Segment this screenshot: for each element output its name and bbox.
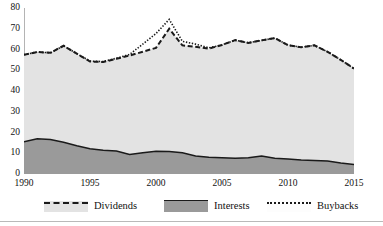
- buybacks-swatch: [267, 201, 311, 212]
- chart-svg: [24, 8, 354, 174]
- y-tick-label: 70: [11, 24, 21, 34]
- y-tick-label: 20: [11, 128, 21, 138]
- y-axis: 01020304050607080: [0, 8, 20, 174]
- y-tick-label: 60: [11, 45, 21, 55]
- x-tick-label: 2000: [147, 179, 166, 189]
- y-tick-label: 50: [11, 66, 21, 76]
- x-tick-label: 1990: [15, 179, 34, 189]
- x-axis: 199019952000200520102015: [24, 176, 354, 190]
- x-tick-label: 2005: [213, 179, 232, 189]
- legend-item-buybacks[interactable]: Buybacks: [267, 196, 358, 216]
- dividends-area: [24, 29, 354, 165]
- x-tick-label: 2015: [345, 179, 364, 189]
- y-tick-label: 80: [11, 3, 21, 13]
- y-tick-label: 30: [11, 107, 21, 117]
- interests-swatch: [164, 200, 208, 212]
- footer-divider: [0, 221, 383, 222]
- legend-item-dividends[interactable]: Dividends: [44, 196, 137, 216]
- plot-area: [24, 8, 354, 174]
- legend-label-interests: Interests: [214, 201, 250, 212]
- x-tick-label: 1995: [81, 179, 100, 189]
- y-tick-label: 10: [11, 149, 21, 159]
- dividends-swatch: [44, 201, 88, 212]
- y-tick-label: 40: [11, 86, 21, 96]
- legend-label-dividends: Dividends: [94, 201, 137, 212]
- legend-label-buybacks: Buybacks: [317, 201, 358, 212]
- x-tick-label: 2010: [279, 179, 298, 189]
- legend-item-interests[interactable]: Interests: [164, 196, 250, 216]
- chart-figure: 01020304050607080 1990199520002005201020…: [0, 0, 383, 226]
- chart-legend: Dividends Interests Buybacks: [0, 196, 383, 218]
